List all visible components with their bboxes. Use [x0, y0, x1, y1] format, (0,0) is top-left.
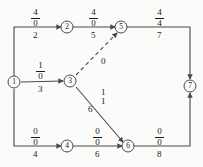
edge-2-5-cost: 5	[91, 31, 96, 40]
edge-1-4-cost: 4	[33, 150, 38, 159]
edge-3-6-cost: 6	[88, 105, 93, 114]
edge-1-2-flow: 4	[32, 8, 39, 17]
edge-6-7-fraction: 0 0	[155, 127, 164, 147]
edge-4-6-cost: 6	[95, 150, 100, 159]
edge-3-5-cost: 0	[101, 57, 106, 66]
edge-2-5-flow: 4	[90, 8, 97, 17]
node-7-label: 7	[185, 81, 196, 92]
edge-1-3-fraction: 1 0	[36, 61, 45, 81]
node-1-label: 1	[9, 77, 20, 88]
node-4-label: 4	[62, 141, 73, 152]
edge-6-7-flow: 0	[156, 127, 163, 136]
edge-1-4-capacity: 0	[32, 138, 39, 147]
edge-1-4-flow: 0	[32, 127, 39, 136]
edge-1-4-fraction: 0 0	[31, 127, 40, 147]
edge-4-6-flow: 0	[94, 127, 101, 136]
edge-5-7-capacity: 4	[156, 19, 163, 28]
edge-4-6-capacity: 0	[94, 138, 101, 147]
edge-1-3-capacity: 0	[37, 72, 44, 81]
edge-2-5-capacity: 0	[90, 19, 97, 28]
edge-1-3-cost: 3	[38, 85, 43, 94]
edge-5-7-cost: 7	[157, 31, 162, 40]
edge-3-6-capacity: 1	[101, 97, 106, 106]
network-flow-diagram: 1 2 3 4 5 6 7 4 0 2 4 0 5 4 4 7 1 0 3 0 …	[0, 0, 203, 167]
edge-1-2-capacity: 0	[32, 19, 39, 28]
edge-3-6-fraction: 1 1	[101, 88, 106, 106]
edge-4-6-fraction: 0 0	[93, 127, 102, 147]
node-6-label: 6	[123, 141, 134, 152]
edge-5-7-fraction: 4 4	[155, 8, 164, 28]
edge-1-2-fraction: 4 0	[31, 8, 40, 28]
edge-6-7-capacity: 0	[156, 138, 163, 147]
node-3-label: 3	[65, 76, 76, 87]
edge-2-5-fraction: 4 0	[89, 8, 98, 28]
node-2-label: 2	[62, 22, 73, 33]
edge-1-3-flow: 1	[37, 61, 44, 70]
edge-1-2-cost: 2	[33, 31, 38, 40]
edge-6-7-cost: 8	[157, 150, 162, 159]
node-5-label: 5	[116, 22, 127, 33]
edge-3-to-5-dashed	[76, 33, 117, 75]
edge-5-7-flow: 4	[156, 8, 163, 17]
